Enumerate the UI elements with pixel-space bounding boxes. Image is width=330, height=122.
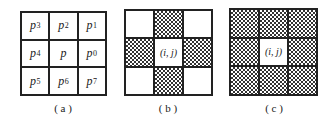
cell-p5: p5 xyxy=(21,67,49,95)
pixel-neighbor-grid: p3 p2 p1 p4 p p0 p5 p6 p7 xyxy=(20,11,107,96)
cell-p2: p2 xyxy=(49,12,77,40)
cell-neighbor xyxy=(154,10,183,38)
cell-p-center: p xyxy=(49,40,77,68)
four-neighborhood-grid: (i, j) xyxy=(124,9,213,96)
cell-corner xyxy=(183,67,212,95)
cell-p3: p3 xyxy=(21,12,49,40)
cell-neighbor xyxy=(230,9,259,38)
cell-p6: p6 xyxy=(49,67,77,95)
cell-neighbor xyxy=(288,9,317,38)
cell-p4: p4 xyxy=(21,40,49,68)
cell-corner xyxy=(183,10,212,38)
cell-center: (i, j) xyxy=(154,38,183,66)
cell-p7: p7 xyxy=(78,67,106,95)
cell-neighbor xyxy=(259,9,288,38)
caption-c: ( c ) xyxy=(244,102,304,114)
cell-p1: p1 xyxy=(78,12,106,40)
cell-neighbor xyxy=(259,66,288,95)
cell-center: (i, j) xyxy=(259,38,288,67)
eight-neighborhood-grid: (i, j) xyxy=(229,8,318,96)
cell-neighbor xyxy=(288,66,317,95)
cell-neighbor xyxy=(230,66,259,95)
cell-corner xyxy=(125,67,154,95)
cell-neighbor xyxy=(125,38,154,66)
cell-neighbor xyxy=(230,38,259,67)
cell-neighbor xyxy=(288,38,317,67)
cell-neighbor xyxy=(154,67,183,95)
caption-b: ( b ) xyxy=(138,102,198,114)
cell-corner xyxy=(125,10,154,38)
caption-a: ( a ) xyxy=(33,102,93,114)
cell-p0: p0 xyxy=(78,40,106,68)
cell-neighbor xyxy=(183,38,212,66)
